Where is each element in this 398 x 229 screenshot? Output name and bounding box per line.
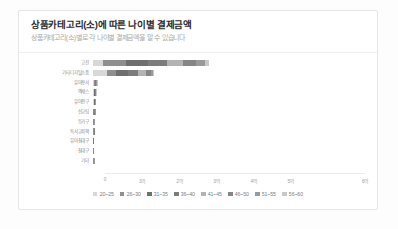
- bar-row: 유아용서: [19, 79, 377, 87]
- legend-label: 51~55: [262, 191, 276, 197]
- stacked-bar[interactable]: [93, 158, 377, 164]
- stacked-bar[interactable]: [93, 109, 377, 115]
- stacked-bar[interactable]: [93, 128, 377, 134]
- legend-item[interactable]: 36~40: [174, 191, 195, 197]
- stacked-bar[interactable]: [93, 99, 377, 105]
- legend-label: 46~50: [235, 191, 249, 197]
- legend-item[interactable]: 56~60: [282, 191, 303, 197]
- chart-plot-area: 고전기타디지털소품유아용서액세스유아완구선교팀등가구독서교육책유아침대구침대구기…: [19, 55, 377, 180]
- bar-track: [93, 128, 377, 134]
- stacked-bar[interactable]: [93, 80, 377, 86]
- chart-legend: 20~2526~3031~3536~4041~4546~5051~5556~60: [19, 191, 377, 197]
- bar-track: [93, 158, 377, 164]
- x-tick: 3억: [216, 175, 253, 187]
- category-label: 선교팀: [19, 108, 93, 116]
- legend-label: 20~25: [100, 191, 114, 197]
- stacked-bar[interactable]: [93, 70, 377, 76]
- bar-segment[interactable]: [126, 60, 148, 66]
- x-tick: 6억: [328, 175, 365, 187]
- card-header: 상품카테고리(소)에 따른 나이별 결제금액 상품카테고리(소)별로 각 나이별…: [31, 19, 367, 43]
- bar-row: 침대구: [19, 147, 377, 155]
- category-label: 유아침대구: [19, 137, 93, 145]
- bar-row: 고전: [19, 59, 377, 67]
- category-label: 기타: [19, 157, 93, 165]
- legend-item[interactable]: 46~50: [228, 191, 249, 197]
- legend-swatch-icon: [147, 192, 151, 196]
- bar-segment[interactable]: [138, 70, 146, 76]
- bar-segment[interactable]: [153, 70, 154, 76]
- stacked-bar[interactable]: [93, 138, 377, 144]
- legend-item[interactable]: 20~25: [93, 191, 114, 197]
- bar-rows: 고전기타디지털소품유아용서액세스유아완구선교팀등가구독서교육책유아침대구침대구기…: [19, 59, 377, 167]
- bar-segment[interactable]: [196, 60, 205, 66]
- screenshot-root: 상품카테고리(소)에 따른 나이별 결제금액 상품카테고리(소)별로 각 나이별…: [0, 0, 398, 229]
- bar-segment[interactable]: [107, 70, 116, 76]
- category-label: 고전: [19, 59, 93, 67]
- category-label: 기타디지털소품: [19, 69, 93, 77]
- category-label: 등가구: [19, 118, 93, 126]
- stacked-bar[interactable]: [93, 89, 377, 95]
- bar-segment[interactable]: [93, 70, 107, 76]
- legend-swatch-icon: [255, 192, 259, 196]
- bar-row: 기타디지털소품: [19, 69, 377, 77]
- x-tick-label: 4억: [250, 177, 256, 184]
- legend-label: 36~40: [181, 191, 195, 197]
- stacked-bar[interactable]: [93, 148, 377, 154]
- bar-segment[interactable]: [128, 70, 138, 76]
- x-tick: 0: [105, 175, 142, 187]
- bar-segment[interactable]: [183, 60, 196, 66]
- legend-swatch-icon: [282, 192, 286, 196]
- legend-item[interactable]: 51~55: [255, 191, 276, 197]
- legend-swatch-icon: [93, 192, 97, 196]
- bar-track: [93, 138, 377, 144]
- card-subtitle: 상품카테고리(소)별로 각 나이별 결제금액을 알 수 있습니다: [31, 32, 367, 43]
- bar-row: 유아침대구: [19, 137, 377, 145]
- x-axis-ticks: 01억2억3억4억5억6억: [105, 175, 365, 187]
- bar-segment[interactable]: [205, 60, 209, 66]
- bar-segment[interactable]: [116, 70, 128, 76]
- bar-row: 선교팀: [19, 108, 377, 116]
- x-axis-line: [105, 173, 365, 174]
- bar-row: 기타: [19, 157, 377, 165]
- bar-row: 등가구: [19, 118, 377, 126]
- bar-track: [93, 119, 377, 125]
- legend-swatch-icon: [228, 192, 232, 196]
- legend-swatch-icon: [120, 192, 124, 196]
- legend-swatch-icon: [174, 192, 178, 196]
- bar-segment[interactable]: [148, 60, 167, 66]
- legend-item[interactable]: 41~45: [201, 191, 222, 197]
- bar-segment[interactable]: [167, 60, 183, 66]
- legend-item[interactable]: 31~35: [147, 191, 168, 197]
- bar-track: [93, 70, 377, 76]
- stacked-bar[interactable]: [93, 60, 377, 66]
- bar-row: 유아완구: [19, 98, 377, 106]
- x-tick: 2억: [179, 175, 216, 187]
- x-tick-label: 5억: [288, 177, 294, 184]
- bar-row: 액세스: [19, 88, 377, 96]
- category-label: 유아용서: [19, 79, 93, 87]
- x-tick-label: 3억: [213, 177, 219, 184]
- bar-track: [93, 80, 377, 86]
- x-tick: 1억: [142, 175, 179, 187]
- x-tick-label: 2억: [176, 177, 182, 184]
- chart-card: 상품카테고리(소)에 따른 나이별 결제금액 상품카테고리(소)별로 각 나이별…: [18, 10, 378, 210]
- bar-track: [93, 99, 377, 105]
- legend-label: 31~35: [154, 191, 168, 197]
- legend-item[interactable]: 26~30: [120, 191, 141, 197]
- header-divider: [19, 52, 377, 53]
- bar-track: [93, 109, 377, 115]
- legend-label: 41~45: [208, 191, 222, 197]
- page-title: 상품카테고리(소)에 따른 나이별 결제금액: [31, 19, 367, 31]
- x-tick-label: 0: [104, 177, 106, 182]
- bar-track: [93, 148, 377, 154]
- legend-label: 26~30: [127, 191, 141, 197]
- bar-segment[interactable]: [103, 60, 126, 66]
- category-label: 침대구: [19, 147, 93, 155]
- x-tick: 4억: [254, 175, 291, 187]
- bar-track: [93, 60, 377, 66]
- stacked-bar[interactable]: [93, 119, 377, 125]
- x-tick-label: 1억: [139, 177, 145, 184]
- bar-segment[interactable]: [93, 60, 103, 66]
- x-tick: 5억: [291, 175, 328, 187]
- legend-label: 56~60: [289, 191, 303, 197]
